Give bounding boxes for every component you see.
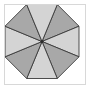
octagon-diagram <box>5 5 87 86</box>
figure-frame <box>4 4 86 85</box>
center-point <box>40 40 43 43</box>
screenshot-root <box>0 0 92 91</box>
